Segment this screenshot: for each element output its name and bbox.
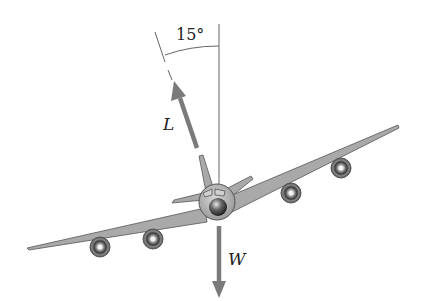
weight-label: W: [228, 249, 247, 269]
lift-label: L: [162, 114, 174, 134]
weight-arrow: [212, 226, 226, 298]
airplane: [27, 125, 399, 257]
engine-left-inner: [143, 229, 163, 249]
right-wing: [230, 125, 399, 212]
angle-label: 15°: [176, 25, 204, 44]
tilted-reference-dash: [168, 70, 172, 80]
engine-right-outer: [331, 158, 351, 178]
angle-arc: [165, 46, 219, 55]
nose-cone: [209, 198, 227, 216]
engine-right-inner: [281, 183, 301, 203]
engine-left-outer: [90, 237, 110, 257]
lift-arrow: [171, 81, 197, 148]
left-wing: [27, 208, 207, 250]
banked-airplane-force-diagram: 15° L: [0, 0, 429, 301]
tilted-reference-line: [155, 32, 165, 62]
